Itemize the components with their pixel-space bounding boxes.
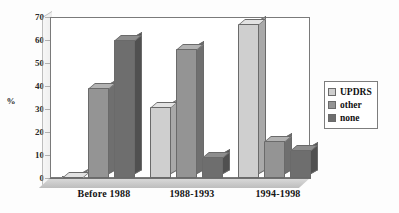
bar-top bbox=[62, 172, 90, 178]
bar-face bbox=[238, 24, 259, 178]
bar-series-container bbox=[50, 17, 310, 178]
y-axis-label: % bbox=[4, 96, 18, 106]
legend-item-other: other bbox=[328, 98, 372, 111]
chart-legend: UPDRS other none bbox=[324, 81, 378, 129]
bar-group-1994-1998 bbox=[234, 17, 316, 178]
legend-label-none: none bbox=[340, 113, 360, 123]
legend-swatch-none-icon bbox=[328, 114, 336, 122]
bar-group-before-1988 bbox=[58, 17, 140, 178]
y-tick-60: 60 bbox=[20, 36, 44, 44]
y-tick-40: 40 bbox=[20, 82, 44, 90]
bar-1988-1993-none bbox=[202, 157, 223, 178]
x-label-1988-1993: 1988-1993 bbox=[148, 188, 236, 199]
bar-side bbox=[197, 41, 204, 174]
y-tick-30: 30 bbox=[20, 105, 44, 113]
y-axis-ticks: 70 60 50 40 30 20 10 0 bbox=[18, 0, 44, 213]
bar-face bbox=[202, 157, 223, 178]
y-tick-10: 10 bbox=[20, 151, 44, 159]
y-tick-20: 20 bbox=[20, 128, 44, 136]
bar-face bbox=[176, 49, 197, 178]
y-tick-0: 0 bbox=[20, 174, 44, 182]
bar-before-1988-other bbox=[88, 88, 109, 178]
x-label-1994-1998: 1994-1998 bbox=[234, 188, 322, 199]
legend-item-updrs: UPDRS bbox=[328, 85, 372, 98]
plot-baseline bbox=[50, 178, 311, 179]
y-tick-70: 70 bbox=[20, 13, 44, 21]
bar-face bbox=[150, 107, 171, 178]
bar-face bbox=[114, 40, 135, 178]
bar-1988-1993-other bbox=[176, 49, 197, 178]
bar-1994-1998-none bbox=[290, 150, 311, 178]
bar-1994-1998-updrs bbox=[238, 24, 259, 178]
plot-floor bbox=[39, 178, 310, 188]
legend-label-other: other bbox=[340, 100, 362, 110]
legend-swatch-updrs-icon bbox=[328, 88, 336, 96]
bar-face bbox=[264, 141, 285, 178]
bar-chart-figure: % 70 60 50 40 30 20 10 0 bbox=[0, 0, 399, 213]
legend-item-none: none bbox=[328, 111, 372, 124]
y-tick-50: 50 bbox=[20, 59, 44, 67]
bar-face bbox=[290, 150, 311, 178]
legend-label-updrs: UPDRS bbox=[340, 87, 372, 97]
bar-1988-1993-updrs bbox=[150, 107, 171, 178]
x-label-before-1988: Before 1988 bbox=[56, 188, 152, 199]
bar-face bbox=[88, 88, 109, 178]
bar-group-1988-1993 bbox=[146, 17, 228, 178]
bar-before-1988-updrs bbox=[62, 177, 83, 178]
bar-1994-1998-other bbox=[264, 141, 285, 178]
bar-side bbox=[135, 32, 142, 174]
bar-before-1988-none bbox=[114, 40, 135, 178]
legend-swatch-other-icon bbox=[328, 101, 336, 109]
